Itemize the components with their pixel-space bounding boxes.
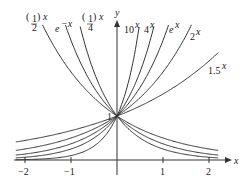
svg-text:1.5: 1.5 [208,65,221,76]
y-tick-1: 1 [107,111,112,122]
x-axis-arrow-icon [225,157,232,163]
svg-text:(: ( [26,11,30,23]
svg-text:x: x [174,19,180,30]
svg-text:e: e [169,24,174,35]
svg-text:x: x [98,11,104,22]
svg-text:e: e [55,23,60,34]
x-axis-label: x [233,155,239,166]
svg-text:x: x [42,11,48,22]
svg-text:x: x [134,19,140,30]
y-axis-arrow-icon [114,20,120,27]
curve-ex [66,25,219,155]
label-e-neg-x: e −x [55,18,73,34]
svg-text:2: 2 [190,31,195,42]
tick-m1: −1 [64,166,75,177]
curve-ex [16,25,169,155]
tick-1: 1 [160,166,165,177]
svg-text:x: x [221,60,227,71]
tick-2: 2 [206,166,211,177]
svg-text:): ) [37,11,40,23]
label-10x: 10 x [124,19,140,35]
y-axis-label: y [114,7,120,18]
label-4x: 4 x [144,19,155,35]
label-1-5x: 1.5 x [208,60,227,76]
svg-text:x: x [149,19,155,30]
svg-text:4: 4 [144,24,149,35]
label-2x: 2 x [190,26,201,42]
label-quarter-x: ( 1 4 ) x [82,11,104,33]
svg-text:2: 2 [32,22,37,33]
svg-text:(: ( [82,11,86,23]
curve-10x [16,27,139,160]
svg-text:): ) [93,11,96,23]
svg-text:x: x [195,26,201,37]
curve-2x [16,25,192,151]
tick-m2: −2 [18,166,29,177]
svg-text:10: 10 [124,24,134,35]
exponential-plot: x y −2 −1 1 2 1 ( 1 2 ) x e −x ( 1 4 ) x… [0,0,242,188]
svg-text:−x: −x [61,18,73,29]
label-ex: e x [169,19,180,35]
svg-text:4: 4 [88,22,93,33]
